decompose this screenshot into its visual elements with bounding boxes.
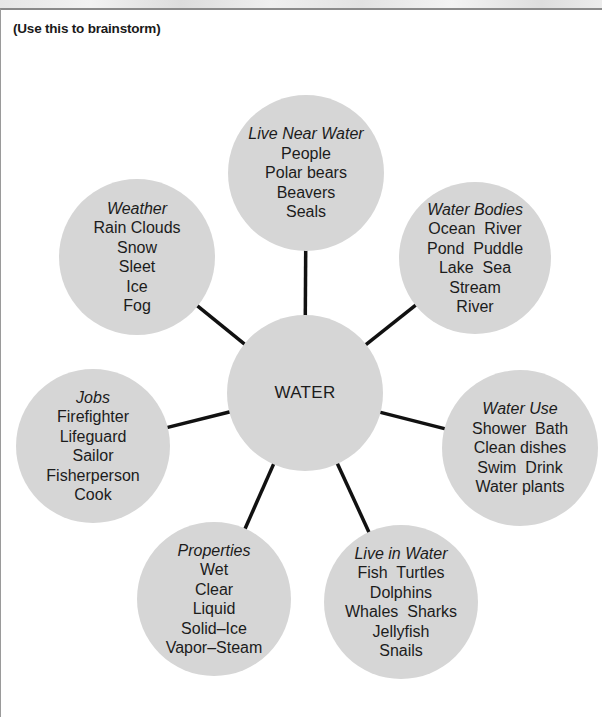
node-item: Swim Drink: [477, 458, 562, 478]
node-item: Pond Puddle: [427, 239, 523, 259]
node-item: Vapor–Steam: [166, 638, 263, 658]
node-item: Snails: [379, 641, 423, 661]
node-item: Dolphins: [370, 583, 432, 603]
node-live-near-water: Live Near Water People Polar bears Beave…: [228, 95, 384, 251]
node-item: Clean dishes: [474, 438, 567, 458]
node-item: Snow: [117, 238, 157, 258]
node-item: Fisherperson: [46, 466, 139, 486]
node-water-use: Water Use Shower Bath Clean dishes Swim …: [442, 370, 598, 526]
node-item: Fog: [123, 296, 151, 316]
node-item: Shower Bath: [472, 419, 568, 439]
node-title: Properties: [178, 541, 251, 561]
node-item: Whales Sharks: [345, 602, 457, 622]
connector-line: [245, 463, 274, 529]
connector-line: [337, 463, 369, 533]
node-item: Ocean River: [428, 219, 521, 239]
node-item: Seals: [286, 202, 326, 222]
node-title: Weather: [107, 199, 167, 219]
node-item: Rain Clouds: [93, 218, 180, 238]
node-item: Lifeguard: [60, 427, 127, 447]
node-item: Sleet: [119, 257, 155, 277]
node-item: Clear: [195, 580, 233, 600]
node-item: Liquid: [193, 599, 236, 619]
node-item: Sailor: [73, 446, 114, 466]
center-label: WATER: [275, 383, 336, 403]
node-item: Jellyfish: [373, 622, 430, 642]
connector-line: [365, 305, 416, 346]
node-properties: Properties Wet Clear Liquid Solid–Ice Va…: [137, 522, 291, 676]
node-item: Beavers: [277, 183, 336, 203]
node-jobs: Jobs Firefighter Lifeguard Sailor Fisher…: [16, 369, 170, 523]
node-title: Water Use: [482, 399, 557, 419]
node-title: Live in Water: [354, 544, 447, 564]
node-item: Polar bears: [265, 163, 347, 183]
node-item: Ice: [126, 277, 147, 297]
node-item: People: [281, 144, 331, 164]
node-item: Cook: [74, 485, 111, 505]
center-node-water: WATER: [227, 315, 383, 471]
node-weather: Weather Rain Clouds Snow Sleet Ice Fog: [59, 179, 215, 335]
node-item: River: [456, 297, 493, 317]
connector-line: [380, 412, 446, 429]
node-item: Water plants: [475, 477, 564, 497]
connector-line: [167, 412, 231, 428]
node-item: Wet: [200, 560, 228, 580]
node-item: Solid–Ice: [181, 619, 247, 639]
node-water-bodies: Water Bodies Ocean River Pond Puddle Lak…: [399, 182, 551, 334]
node-title: Water Bodies: [427, 200, 523, 220]
node-item: Lake Sea: [439, 258, 511, 278]
node-title: Live Near Water: [248, 124, 363, 144]
node-item: Firefighter: [57, 407, 129, 427]
node-live-in-water: Live in Water Fish Turtles Dolphins Whal…: [324, 525, 478, 679]
node-title: Jobs: [76, 388, 110, 408]
connector-line: [197, 305, 245, 344]
node-item: Stream: [449, 278, 501, 298]
node-item: Fish Turtles: [357, 563, 444, 583]
